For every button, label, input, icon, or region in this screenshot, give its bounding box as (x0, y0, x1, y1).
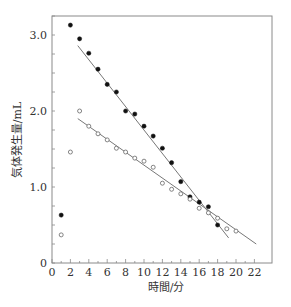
filled-data-point (87, 51, 91, 55)
open-fit-line (78, 119, 256, 244)
filled-data-point (105, 82, 109, 86)
gas-volume-chart: 0246810121416182022 01.02.03.0 時間/分 気体発生… (0, 0, 291, 307)
filled-data-point (197, 200, 201, 204)
plot-frame (52, 16, 272, 263)
x-tick-label: 10 (137, 266, 151, 279)
open-data-point (78, 109, 82, 113)
open-data-point (96, 132, 100, 136)
y-axis-ticks: 01.02.03.0 (30, 16, 56, 270)
filled-data-point (96, 67, 100, 71)
open-data-point (105, 138, 109, 142)
filled-data-point (114, 90, 118, 94)
x-tick-label: 8 (122, 266, 129, 279)
open-data-point (142, 159, 146, 163)
x-tick-label: 6 (104, 266, 111, 279)
y-tick-label: 1.0 (30, 181, 48, 194)
x-tick-label: 12 (155, 266, 169, 279)
regression-lines (78, 46, 256, 244)
filled-data-point (160, 146, 164, 150)
open-data-point (225, 227, 229, 231)
y-tick-label: 0 (40, 257, 47, 270)
open-data-point (114, 146, 118, 150)
data-points (59, 23, 238, 237)
filled-data-point (68, 23, 72, 27)
x-tick-label: 16 (192, 266, 206, 279)
filled-data-point (142, 124, 146, 128)
open-data-point (188, 197, 192, 201)
filled-data-point (216, 223, 220, 227)
filled-data-point (133, 112, 137, 116)
x-tick-label: 18 (211, 266, 225, 279)
x-tick-label: 0 (49, 266, 56, 279)
open-data-point (170, 187, 174, 191)
filled-data-point (59, 213, 63, 217)
y-tick-label: 2.0 (30, 105, 48, 118)
y-tick-label: 3.0 (30, 29, 48, 42)
x-tick-label: 14 (174, 266, 188, 279)
open-data-point (151, 165, 155, 169)
x-tick-label: 22 (247, 266, 261, 279)
x-tick-label: 4 (85, 266, 92, 279)
open-data-point (234, 229, 238, 233)
open-data-point (216, 216, 220, 220)
x-tick-label: 2 (67, 266, 74, 279)
open-data-point (87, 124, 91, 128)
open-data-point (179, 192, 183, 196)
x-tick-label: 20 (229, 266, 243, 279)
x-axis-title: 時間/分 (148, 281, 185, 294)
filled-data-point (151, 134, 155, 138)
filled-data-point (179, 180, 183, 184)
filled-data-point (206, 205, 210, 209)
open-data-point (68, 150, 72, 154)
y-axis-title: 気体発生量/mL (10, 101, 24, 178)
x-axis-ticks: 0246810121416182022 (49, 259, 262, 279)
open-data-point (133, 156, 137, 160)
filled-data-point (78, 37, 82, 41)
filled-data-point (170, 161, 174, 165)
open-data-point (160, 181, 164, 185)
open-data-point (206, 211, 210, 215)
open-data-point (59, 233, 63, 237)
open-data-point (197, 206, 201, 210)
open-data-point (124, 150, 128, 154)
filled-data-point (124, 109, 128, 113)
